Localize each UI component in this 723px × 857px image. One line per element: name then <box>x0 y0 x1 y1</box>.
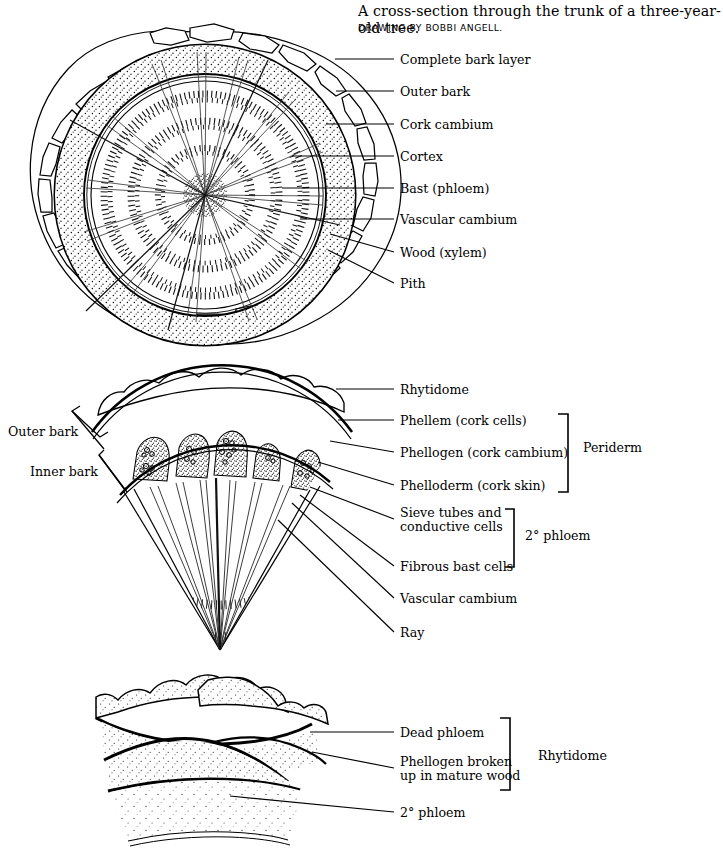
group-label-rhytidome: Rhytidome <box>538 748 607 763</box>
secondary-phloem-bottom-arc-inner <box>130 837 290 846</box>
figure-trunk-cross-section <box>30 24 401 360</box>
label-wood-xylem: Wood (xylem) <box>400 246 487 260</box>
group-label-periderm: Periderm <box>583 440 642 455</box>
label-fibrous-bast-cells: Fibrous bast cells <box>400 560 513 574</box>
illustration-page: A cross-section through the trunk of a t… <box>0 0 723 857</box>
leader-lines-figure-2 <box>278 389 394 632</box>
bracket-inner-bark <box>99 450 131 492</box>
label-vascular-cambium-1: Vascular cambium <box>400 213 517 227</box>
label-cork-cambium: Cork cambium <box>400 118 494 132</box>
label-dead-phloem: Dead phloem <box>400 726 484 740</box>
label-outer-bark-side: Outer bark <box>8 424 78 439</box>
label-complete-bark-layer: Complete bark layer <box>400 53 531 67</box>
label-ray: Ray <box>400 626 424 640</box>
label-inner-bark-side: Inner bark <box>30 464 98 479</box>
label-cortex: Cortex <box>400 150 443 164</box>
botanical-artwork <box>0 0 723 857</box>
label-bast-phloem: Bast (phloem) <box>400 182 489 196</box>
label-phellogen-broken-line2: up in mature wood <box>400 769 520 783</box>
label-vascular-cambium-2: Vascular cambium <box>400 592 517 606</box>
label-phellem: Phellem (cork cells) <box>400 414 527 428</box>
rhytidome-top-mass-right <box>198 677 328 724</box>
label-phelloderm: Phelloderm (cork skin) <box>400 479 546 493</box>
label-sieve-tubes-line2: conductive cells <box>400 520 503 534</box>
label-phellogen: Phellogen (cork cambium) <box>400 446 568 460</box>
label-pith: Pith <box>400 277 426 291</box>
label-secondary-phloem-3: 2° phloem <box>400 806 466 820</box>
group-label-secondary-phloem: 2° phloem <box>525 528 591 543</box>
label-rhytidome-2: Rhytidome <box>400 383 469 397</box>
label-outer-bark: Outer bark <box>400 85 470 99</box>
